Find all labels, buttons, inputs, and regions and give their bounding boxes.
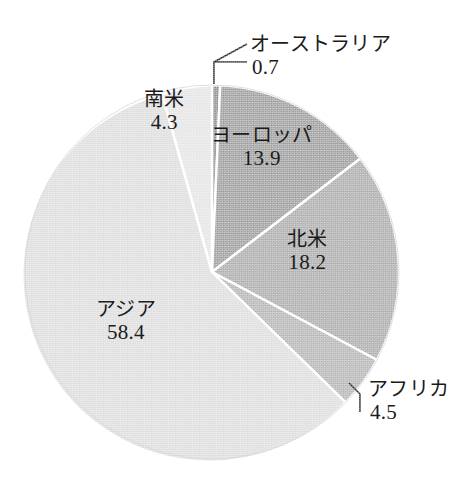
pie-label-north-america-value: 18.2 bbox=[287, 251, 328, 275]
pie-label-south-america: 南米 4.3 bbox=[144, 88, 185, 135]
pie-label-australia-value: 0.7 bbox=[252, 56, 391, 80]
pie-label-europe-value: 13.9 bbox=[211, 147, 313, 171]
leader-line-australia bbox=[214, 44, 247, 84]
pie-label-europe-name: ヨーロッパ bbox=[211, 124, 313, 146]
pie-label-europe: ヨーロッパ 13.9 bbox=[211, 124, 313, 171]
pie-chart-figure: オーストラリア 0.7 南米 4.3 ヨーロッパ 13.9 北米 18.2 アジ… bbox=[0, 0, 468, 491]
pie-label-north-america-name: 北米 bbox=[287, 228, 328, 250]
pie-label-south-america-value: 4.3 bbox=[144, 111, 185, 135]
pie-label-australia-name: オーストラリア bbox=[250, 33, 391, 55]
pie-label-north-america: 北米 18.2 bbox=[287, 228, 328, 275]
pie-label-africa-name: アフリカ bbox=[368, 378, 449, 400]
pie-label-australia: オーストラリア 0.7 bbox=[250, 33, 391, 80]
pie-label-africa: アフリカ 4.5 bbox=[368, 378, 449, 425]
pie-label-south-america-name: 南米 bbox=[144, 88, 185, 110]
pie-label-africa-value: 4.5 bbox=[370, 401, 449, 425]
pie-label-asia-name: アジア bbox=[96, 298, 156, 320]
pie-label-asia-value: 58.4 bbox=[96, 321, 156, 345]
cropped-caption-strip bbox=[0, 479, 468, 491]
pie-label-asia: アジア 58.4 bbox=[96, 298, 156, 345]
